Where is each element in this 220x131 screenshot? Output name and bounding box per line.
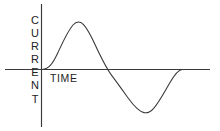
- y-axis-letter: U: [31, 28, 39, 39]
- y-axis-letter: T: [32, 94, 39, 105]
- waveform-figure: C U R R E N T TIME: [0, 0, 220, 131]
- y-axis-label: C U R R E N T: [28, 15, 42, 107]
- y-axis-letter: C: [31, 15, 39, 26]
- x-axis-label: TIME: [50, 72, 77, 84]
- y-axis-letter: R: [31, 54, 39, 65]
- y-axis-letter: R: [31, 41, 39, 52]
- y-axis-letter: N: [31, 80, 39, 91]
- sine-wave-curve: [42, 22, 182, 113]
- y-axis-letter: E: [31, 67, 38, 78]
